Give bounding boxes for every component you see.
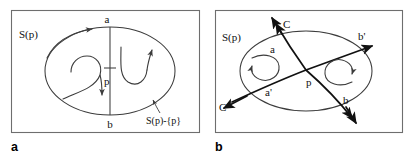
panel-b-label-c-prime: C' [219,101,228,113]
panel-a-label-b: b [107,118,113,130]
figure-svg: S(p) a b p S(p)-{p} a [0,0,413,156]
panel-b-label-a-prime: a' [265,86,272,98]
panel-a: S(p) a b p S(p)-{p} a [11,11,200,155]
panel-b-curve-cprime-upper-branch [306,46,372,70]
figure-container: S(p) a b p S(p)-{p} a [0,0,413,156]
panel-a-label-a: a [105,13,110,25]
panel-b-curve-b-arrow-secondary [346,107,356,123]
panel-b-letter: b [215,140,223,154]
panel-b-label-b-prime: b' [358,30,366,42]
panel-a-label-p: p [104,75,110,87]
panel-b-label-p: p [306,76,312,88]
panel-a-punctured-label: S(p)-{p} [146,115,181,127]
panel-a-right-interior-arrowhead [147,50,152,70]
panel-a-set-label: S(p) [19,28,38,41]
panel-a-left-interior-flow [63,56,101,99]
panel-b-frame [216,11,403,133]
panel-b-label-c: C [283,18,290,30]
panel-b-set-label: S(p) [222,31,241,44]
panel-b-curve-c-arrow-secondary [272,18,282,34]
panel-b-label-a: a [270,43,275,55]
panel-a-right-interior-flow [121,47,147,84]
panel-b-label-b: b [343,94,349,106]
panel-a-left-interior-arrowhead [100,75,102,95]
panel-a-letter: a [11,140,19,154]
panel-b-left-swirl [251,55,279,80]
panel-b-right-swirl [325,60,353,85]
panel-b: S(p) C C' a a' b b' p b [215,11,403,155]
panel-a-outer-flow-arrow [47,29,92,58]
